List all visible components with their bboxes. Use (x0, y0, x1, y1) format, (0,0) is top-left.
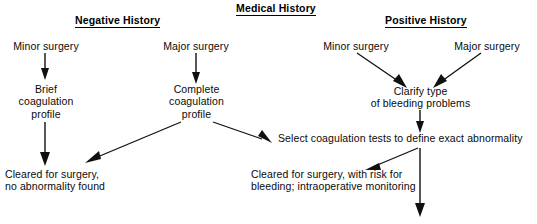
node-select-coagulation-tests: Select coagulation tests to define exact… (278, 132, 536, 144)
edge-major-right-to-clarify (433, 53, 481, 88)
edge-select-to-cleared-risk (365, 148, 418, 170)
node-cleared-no-abnormality: Cleared for surgery, no abnormality foun… (5, 168, 185, 193)
node-brief-coagulation-profile: Brief coagulation profile (0, 83, 92, 120)
column-heading-negative-history: Negative History (75, 14, 160, 28)
edge-complete-to-select (213, 122, 272, 143)
node-major-surgery-left: Major surgery (150, 40, 242, 52)
edge-minor-left-to-brief (41, 53, 49, 80)
node-cleared-with-risk: Cleared for surgery, with risk for bleed… (251, 168, 441, 193)
node-clarify-type-bleeding: Clarify type of bleeding problems (352, 85, 489, 110)
edge-complete-to-cleared (85, 122, 181, 163)
node-complete-coagulation-profile: Complete coagulation profile (150, 83, 243, 120)
edge-minor-right-to-clarify (357, 53, 407, 88)
page-title: Medical History (236, 2, 316, 16)
node-minor-surgery-left: Minor surgery (2, 40, 90, 52)
node-major-surgery-right: Major surgery (440, 40, 534, 52)
edge-major-left-to-complete (192, 53, 200, 84)
column-heading-positive-history: Positive History (385, 14, 467, 28)
medical-history-flowchart: Medical History Negative History Positiv… (0, 0, 537, 224)
edge-brief-to-cleared (40, 122, 50, 166)
edge-clarify-to-clarify-select (416, 110, 424, 133)
node-minor-surgery-right: Minor surgery (310, 40, 402, 52)
